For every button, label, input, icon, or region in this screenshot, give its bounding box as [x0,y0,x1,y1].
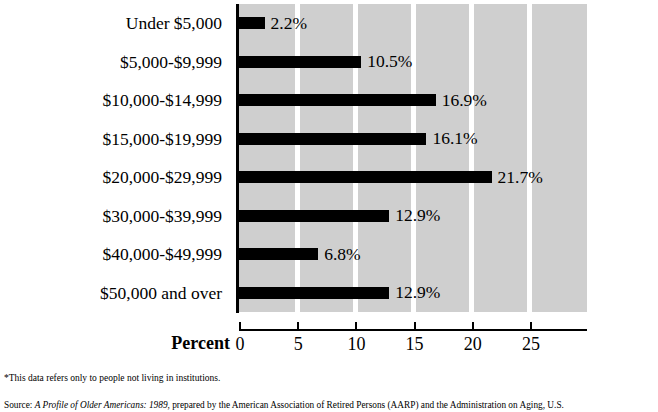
x-tick-label: 20 [453,333,493,355]
bar-value-label: 10.5% [367,51,412,72]
x-axis-line [239,329,587,331]
bar-row: 12.9% [239,274,587,313]
bar [239,287,389,299]
category-label: $20,000-$29,999 [102,158,222,197]
x-axis-tick-labels: 0510152025 [239,333,599,357]
category-label: $10,000-$14,999 [102,81,222,120]
category-label: $50,000 and over [100,274,222,313]
bar-row: 21.7% [239,158,587,197]
footnote-text: *This data refers only to people not liv… [4,372,220,384]
category-label: $40,000-$49,999 [102,235,222,274]
bar-row: 2.2% [239,4,587,43]
x-tick-label: 5 [278,333,318,355]
bar [239,56,361,68]
bar [239,171,492,183]
bar [239,133,426,145]
bar-value-label: 12.9% [395,205,440,226]
bar-row: 16.9% [239,81,587,120]
bar [239,248,318,260]
bar-value-label: 12.9% [395,282,440,303]
category-label: Under $5,000 [126,4,222,43]
x-tick-10 [355,322,357,329]
x-tick-0 [239,322,241,329]
category-label: $30,000-$39,999 [102,197,222,236]
source-label: Source: [4,400,35,410]
bar [239,94,436,106]
x-tick-label: 10 [336,333,376,355]
bar [239,210,389,222]
bar-value-label: 6.8% [324,244,360,265]
x-axis-title: Percent [140,332,230,354]
income-distribution-bar-chart: Under $5,000$5,000-$9,999$10,000-$14,999… [0,0,658,412]
category-axis: Under $5,000$5,000-$9,999$10,000-$14,999… [0,4,230,312]
source-rest: , prepared by the American Association o… [168,400,564,410]
bar-value-label: 16.9% [442,90,487,111]
bar-value-label: 2.2% [271,13,307,34]
x-tick-25 [530,322,532,329]
bar-row: 16.1% [239,120,587,159]
source-note: Source: A Profile of Older Americans: 19… [4,399,658,411]
bar-row: 6.8% [239,235,587,274]
bars-layer: 2.2%10.5%16.9%16.1%21.7%12.9%6.8%12.9% [239,4,587,312]
bar-value-label: 21.7% [498,167,543,188]
source-title: A Profile of Older Americans: 1989 [35,400,168,410]
x-tick-label: 15 [395,333,435,355]
bar-row: 12.9% [239,197,587,236]
bar-row: 10.5% [239,43,587,82]
x-tick-label: 25 [511,333,551,355]
x-tick-20 [472,322,474,329]
x-tick-5 [297,322,299,329]
category-label: $15,000-$19,999 [102,120,222,159]
bar [239,17,265,29]
x-tick-15 [414,322,416,329]
bar-value-label: 16.1% [432,128,477,149]
category-label: $5,000-$9,999 [120,43,222,82]
